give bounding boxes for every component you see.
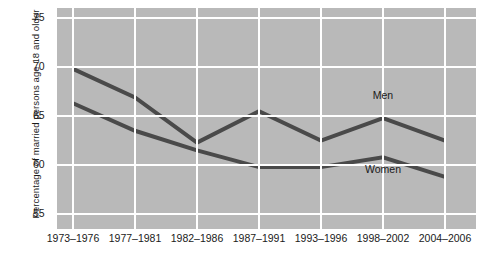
gridline-vertical: [72, 8, 74, 229]
gridline-horizontal: [57, 213, 476, 215]
x-tick-label: 1982–1986: [171, 232, 224, 244]
y-tick-label: 75: [33, 11, 55, 23]
gridline-horizontal: [57, 115, 476, 117]
x-tick-label: 1993–1996: [295, 232, 348, 244]
gridline-vertical: [444, 8, 446, 229]
gridline-vertical: [134, 8, 136, 229]
gridline-horizontal: [57, 66, 476, 68]
gridline-vertical: [258, 8, 260, 229]
y-tick-label: 65: [33, 109, 55, 121]
series-label-men: Men: [373, 89, 393, 101]
x-tick-label: 1987–1991: [233, 232, 286, 244]
gridline-vertical: [382, 8, 384, 229]
gridline-horizontal: [57, 164, 476, 166]
x-tick-label: 2004–2006: [419, 232, 472, 244]
gridline-horizontal: [57, 17, 476, 19]
y-tick-label: 60: [33, 158, 55, 170]
x-tick-label: 1973–1976: [47, 232, 100, 244]
line-chart: Percentage of married persons age 18 and…: [0, 0, 480, 256]
series-label-women: Women: [365, 163, 401, 175]
x-tick-label: 1998–2002: [357, 232, 410, 244]
x-tick-label: 1977–1981: [109, 232, 162, 244]
y-tick-label: 55: [33, 207, 55, 219]
series-lines: [57, 8, 476, 229]
plot-area: MenWomen: [57, 8, 476, 229]
gridline-vertical: [196, 8, 198, 229]
gridline-vertical: [320, 8, 322, 229]
y-tick-label: 70: [33, 60, 55, 72]
